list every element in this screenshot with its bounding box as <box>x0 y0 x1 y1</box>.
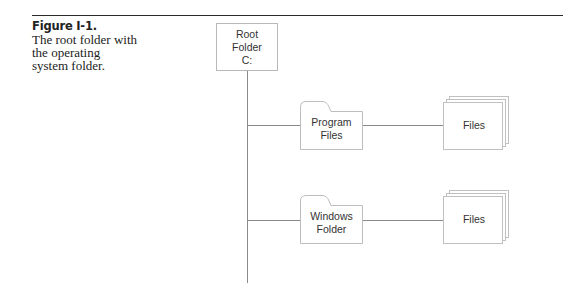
figure-label: Figure I-1. <box>32 19 202 33</box>
branch-connector <box>363 220 443 221</box>
root-label-line: C: <box>217 54 277 67</box>
root-label-line: Root <box>217 28 277 41</box>
program-files-folder-node: Program Files <box>300 101 363 149</box>
files-label: Files <box>444 213 504 225</box>
caption-line: system folder. <box>32 59 202 72</box>
root-label-line: Folder <box>217 41 277 54</box>
folder-label-line: Folder <box>300 223 363 236</box>
folder-label-line: Files <box>300 129 363 142</box>
page-layer: Files <box>443 196 503 244</box>
files-label: Files <box>444 119 504 131</box>
figure-caption: Figure I-1. The root folder with the ope… <box>32 19 202 72</box>
header-rule <box>32 15 563 16</box>
branch-connector <box>247 125 300 126</box>
trunk-connector <box>247 71 248 283</box>
page-layer: Files <box>443 102 503 150</box>
folder-label-line: Windows <box>300 210 363 223</box>
folder-label-line: Program <box>300 116 363 129</box>
root-folder-node: Root Folder C: <box>216 23 278 71</box>
windows-folder-node: Windows Folder <box>300 195 363 243</box>
files-node: Files <box>443 190 511 246</box>
files-node: Files <box>443 96 511 152</box>
branch-connector <box>363 125 443 126</box>
branch-connector <box>247 220 300 221</box>
